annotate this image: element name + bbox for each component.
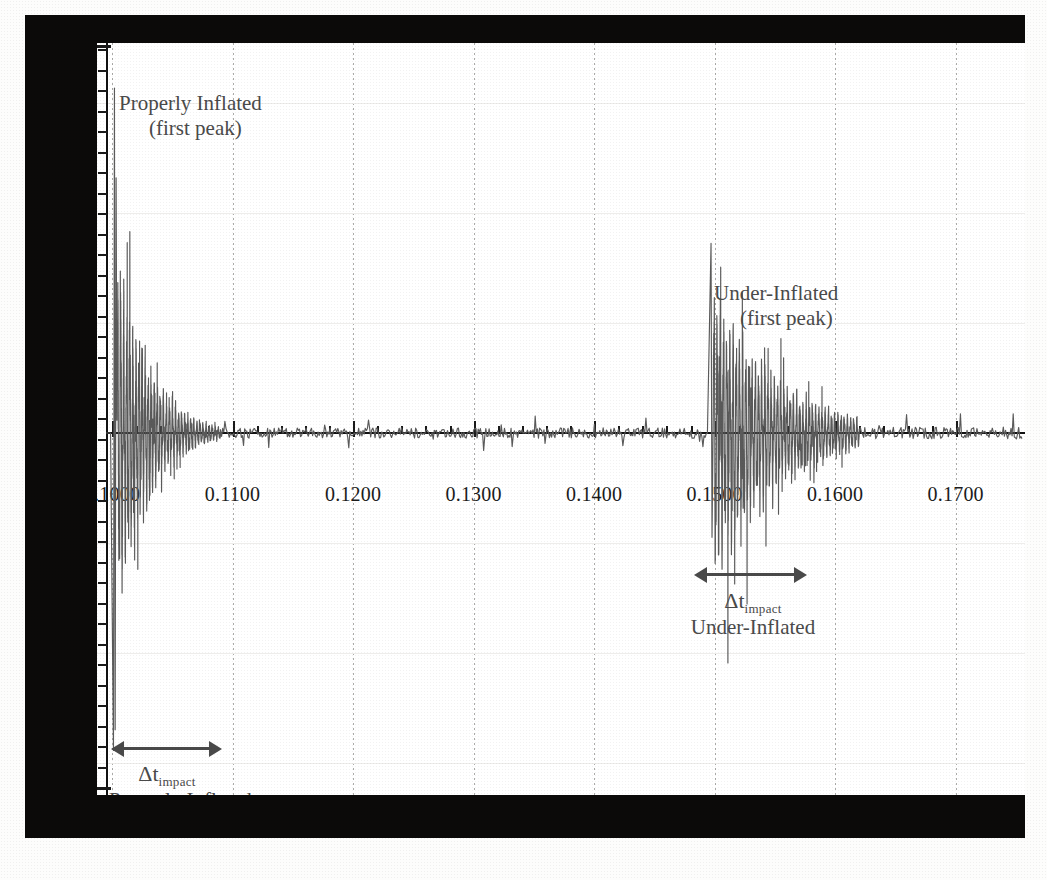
scanned-page: 0.10000.11000.12000.13000.14000.15000.16… <box>0 0 1047 880</box>
scan-border-top <box>25 15 1025 43</box>
span-arrow-line-properly-inflated <box>122 747 210 750</box>
delta-t-symbol-under-inflated: Δt <box>724 588 744 613</box>
delta-t-subscript-under-inflated: impact <box>745 601 782 616</box>
waveform-trace <box>97 43 1025 795</box>
span-label-under-inflated: Under-Inflated <box>675 615 831 640</box>
annotation-properly-inflated-peak: Properly Inflated (first peak) <box>119 91 262 141</box>
delta-t-subscript-properly-inflated: impact <box>159 774 196 789</box>
span-arrowhead-right-under-inflated <box>794 567 807 583</box>
annotation-properly-inflated-peak-line1: Properly Inflated <box>119 91 262 116</box>
span-label-properly-inflated: Properly Inflated <box>109 788 252 795</box>
span-arrowhead-left-properly-inflated <box>111 741 124 757</box>
delta-t-symbol-properly-inflated: Δt <box>138 761 158 786</box>
waveform-plot: 0.10000.11000.12000.13000.14000.15000.16… <box>97 43 1025 795</box>
span-arrowhead-left-under-inflated <box>694 567 707 583</box>
span-label-delta-t-under-inflated: Δtimpact <box>695 588 811 617</box>
scan-border-left <box>25 15 97 825</box>
annotation-under-inflated-peak-line2: (first peak) <box>714 306 838 331</box>
span-arrowhead-right-properly-inflated <box>209 741 222 757</box>
annotation-properly-inflated-peak-line2: (first peak) <box>119 116 262 141</box>
annotation-under-inflated-peak: Under-Inflated (first peak) <box>714 281 838 331</box>
span-label-delta-t-properly-inflated: Δtimpact <box>109 761 225 790</box>
span-arrow-line-under-inflated <box>705 573 795 576</box>
annotation-under-inflated-peak-line1: Under-Inflated <box>714 281 838 306</box>
scan-border-bottom <box>25 795 1025 838</box>
